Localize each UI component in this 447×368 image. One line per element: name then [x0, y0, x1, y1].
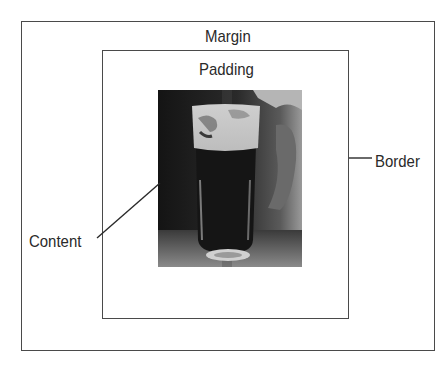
content-leader-line [97, 183, 160, 238]
leader-lines [0, 0, 447, 368]
